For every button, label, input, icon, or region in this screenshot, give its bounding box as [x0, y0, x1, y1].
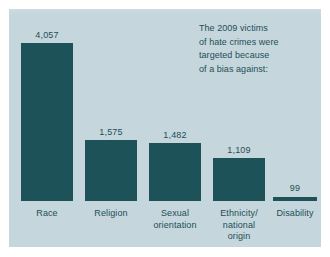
bar-label-sexual-orientation: Sexual orientation: [140, 208, 210, 231]
annotation-line-1: The 2009 victims: [199, 22, 317, 36]
annotation-line-4: of a bias against:: [199, 63, 317, 77]
bar-label-sexual-orientation-line-2: orientation: [153, 220, 196, 230]
bar-value-race: 4,057: [21, 30, 73, 40]
annotation-line-2: of hate crimes were: [199, 36, 317, 50]
chart-annotation: The 2009 victims of hate crimes were tar…: [199, 22, 317, 76]
bar-label-sexual-orientation-line-1: Sexual: [161, 208, 189, 218]
bar-label-ethnicity-line-3: origin: [228, 231, 251, 241]
bar-label-ethnicity-line-1: Ethnicity/: [220, 208, 258, 218]
bar-label-disability: Disability: [260, 208, 321, 220]
bar-race[interactable]: [21, 43, 73, 201]
bar-label-race-line-1: Race: [36, 208, 57, 218]
bar-label-disability-line-1: Disability: [276, 208, 313, 218]
bar-label-religion: Religion: [76, 208, 146, 220]
bar-label-race: Race: [12, 208, 82, 220]
bar-label-religion-line-1: Religion: [94, 208, 127, 218]
bar-religion[interactable]: [85, 140, 137, 201]
bar-value-religion: 1,575: [85, 127, 137, 137]
bar-label-ethnicity-line-2: national: [223, 220, 255, 230]
bar-value-ethnicity-national-origin: 1,109: [213, 145, 265, 155]
bar-value-disability: 99: [273, 183, 317, 193]
bar-sexual-orientation[interactable]: [149, 143, 201, 201]
annotation-line-3: targeted because: [199, 49, 317, 63]
hate-crime-bar-chart-figure: 4,057 Race 1,575 Religion 1,482 Sexual: [0, 0, 330, 257]
bar-disability[interactable]: [273, 197, 317, 201]
chart-panel: 4,057 Race 1,575 Religion 1,482 Sexual: [9, 9, 321, 247]
bar-value-sexual-orientation: 1,482: [149, 130, 201, 140]
bar-ethnicity-national-origin[interactable]: [213, 158, 265, 201]
